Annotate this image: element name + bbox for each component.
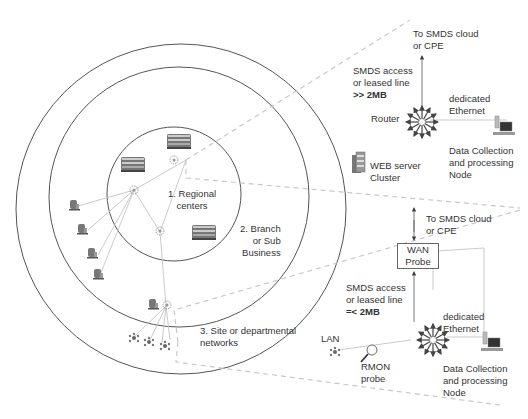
zone-branch-label: 2. Branch or Sub Business: [240, 223, 281, 259]
workstation-icon: [481, 332, 503, 351]
zone-site-label: 3. Site or departmental networks: [200, 325, 296, 349]
uplink-arrows: [414, 56, 422, 322]
magnifier-probe-icon: [361, 345, 377, 362]
lan-label: LAN: [321, 333, 339, 345]
web-cluster-label: WEB server Cluster: [370, 160, 421, 184]
building-icon: [121, 157, 145, 172]
router-icon: [406, 106, 438, 138]
workgroup-icon: [144, 337, 154, 346]
top-node-label: Data Collection and processing Node: [449, 145, 513, 181]
small-building-icon: [69, 200, 80, 211]
hub-icon: [170, 156, 178, 164]
building-icon: [167, 134, 191, 149]
rmon-probe-label: RMON probe: [361, 361, 390, 385]
workstation-icon: [493, 116, 515, 135]
small-building-icon: [93, 269, 104, 280]
zone-regional-label: 1. Regional centers: [168, 188, 216, 212]
top-access-label: SMDS access or leased line >> 2MB: [353, 65, 413, 101]
workgroup-icon: [330, 347, 340, 356]
bottom-ethernet-label: dedicated Ethernet: [443, 311, 484, 335]
small-building-icon: [148, 299, 159, 310]
building-icon: [192, 225, 216, 240]
wan-probe-box: WAN Probe: [397, 243, 439, 269]
bottom-access-label: SMDS access or leased line =< 2MB: [346, 282, 406, 318]
bottom-uplink-label: To SMDS cloud or CPE: [426, 213, 491, 237]
router-label: Router: [371, 113, 400, 125]
small-building-icon: [87, 248, 98, 259]
bottom-node-label: Data Collection and processing Node: [443, 363, 507, 399]
workgroup-icon: [129, 333, 139, 342]
top-uplink-label: To SMDS cloud or CPE: [413, 28, 478, 52]
top-ethernet-label: dedicated Ethernet: [449, 93, 490, 117]
network-diagram-canvas: [0, 0, 528, 419]
server-cluster-icon: [352, 152, 365, 173]
small-building-icon: [77, 224, 88, 235]
workgroup-icon: [160, 341, 170, 350]
